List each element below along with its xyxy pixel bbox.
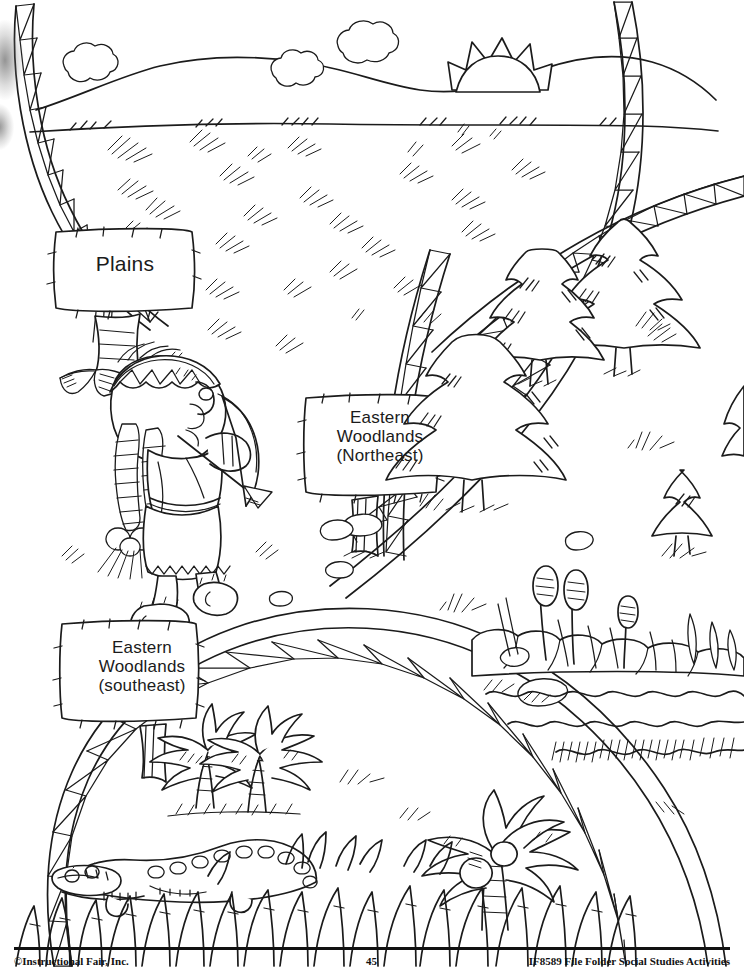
footer-rule [14,947,730,950]
page-footer: ©Instructional Fair, Inc. 45 IF8589 File… [0,950,744,967]
footer-source: IF8589 File Folder Social Studies Activi… [529,955,730,967]
footer-page-number: 45 [366,955,377,967]
footer-copyright: ©Instructional Fair, Inc. [14,955,129,967]
worksheet-artwork: .ln{fill:none;stroke:#1b1b1b;stroke-widt… [0,0,744,967]
worksheet-page: .ln{fill:none;stroke:#1b1b1b;stroke-widt… [0,0,744,967]
